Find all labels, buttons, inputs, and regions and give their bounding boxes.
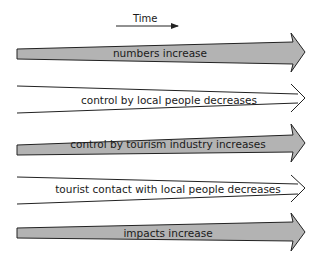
arrow-impacts-increase: impacts increase — [17, 213, 305, 251]
arrow-numbers-increase: numbers increase — [17, 33, 305, 72]
arrow-label: tourist contact with local people decrea… — [55, 183, 281, 195]
arrow-local-control-decreases: control by local people decreases — [17, 84, 305, 113]
arrow-label: numbers increase — [113, 47, 207, 59]
arrow-label: impacts increase — [123, 227, 212, 239]
arrow-label: control by tourism industry increases — [70, 138, 266, 150]
time-label: Time — [132, 13, 157, 24]
arrow-tourism-industry-control-increases: control by tourism industry increases — [17, 124, 305, 162]
arrow-label: control by local people decreases — [81, 94, 257, 106]
arrow-tourist-contact-decreases: tourist contact with local people decrea… — [17, 175, 305, 204]
time-arrow: Time — [116, 13, 178, 26]
tourism-trends-diagram: Time numbers increase control by local p… — [0, 0, 326, 271]
